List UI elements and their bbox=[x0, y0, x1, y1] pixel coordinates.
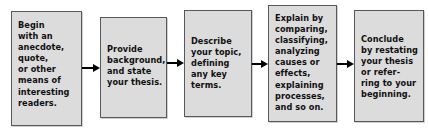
arrow-right-icon bbox=[347, 60, 354, 68]
arrow-explain-to-conclude bbox=[337, 59, 354, 69]
flow-box-provide-background: Provide background, and state your thesi… bbox=[100, 17, 167, 118]
flow-box-explain-methods: Explain by comparing, classifying, analy… bbox=[268, 5, 337, 122]
flow-box-explain-methods-text: Explain by comparing, classifying, analy… bbox=[275, 13, 333, 113]
essay-structure-flowchart: Begin with an anecdote, quote, or other … bbox=[0, 0, 428, 135]
arrow-describe-to-explain bbox=[252, 59, 268, 69]
flow-box-begin-text: Begin with an anecdote, quote, or other … bbox=[18, 20, 78, 109]
arrow-right-icon bbox=[261, 60, 268, 68]
flow-box-describe-topic: Describe your topic, defining any key te… bbox=[184, 10, 252, 117]
flow-box-conclude: Conclude by restating your thesis or ref… bbox=[354, 10, 424, 122]
flow-box-provide-background-text: Provide background, and state your thesi… bbox=[107, 44, 163, 88]
arrow-right-icon bbox=[93, 64, 100, 72]
arrow-begin-to-provide bbox=[82, 63, 100, 73]
flow-box-describe-topic-text: Describe your topic, defining any key te… bbox=[191, 36, 248, 91]
flow-box-begin: Begin with an anecdote, quote, or other … bbox=[11, 11, 82, 126]
arrow-provide-to-describe bbox=[167, 58, 184, 68]
flow-box-conclude-text: Conclude by restating your thesis or ref… bbox=[361, 34, 420, 101]
arrow-right-icon bbox=[177, 59, 184, 67]
